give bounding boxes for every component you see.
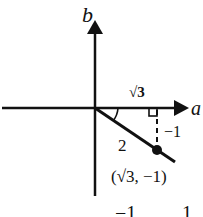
adjacent-side-label: √3 <box>129 85 145 100</box>
point-coordinate-label: (√3, −1) <box>111 168 167 185</box>
point-marker <box>152 145 162 155</box>
bottom-label-left: −1 <box>115 203 136 217</box>
real-axis-label: a <box>191 98 201 118</box>
complex-plane-diagram <box>0 0 203 217</box>
real-axis-arrowhead-icon <box>174 100 189 116</box>
hypotenuse-label: 2 <box>118 137 127 154</box>
angle-arc <box>113 108 118 121</box>
opposite-side-label: −1 <box>164 124 181 140</box>
bottom-label-right: 1 <box>182 203 192 217</box>
imaginary-axis-label: b <box>82 4 93 26</box>
hypotenuse-line <box>95 108 175 162</box>
